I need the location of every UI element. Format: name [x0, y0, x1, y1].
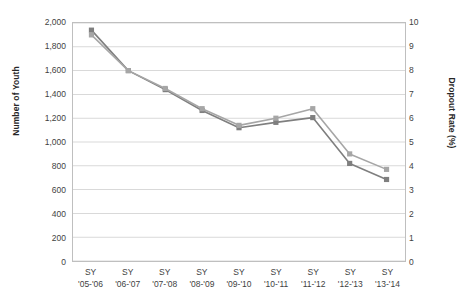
left-tick-label: 800 [26, 162, 66, 171]
x-tick-label: SY'10-'11 [258, 266, 295, 304]
x-tick-label: SY'13-'14 [369, 266, 406, 304]
left-tick-label: 2,000 [26, 18, 66, 27]
data-point [89, 32, 94, 37]
data-point [310, 115, 315, 120]
left-tick-label: 1,400 [26, 90, 66, 99]
right-tick-label: 3 [409, 186, 439, 195]
left-axis-title: Number of Youth [11, 47, 21, 155]
gridlines [73, 23, 405, 261]
left-axis-tick-labels: 2,0001,8001,6001,4001,2001,0008006004002… [26, 0, 66, 306]
data-point [89, 28, 94, 33]
x-tick-label: SY'07-'08 [146, 266, 183, 304]
right-axis-tick-labels: 109876543210 [409, 0, 439, 306]
right-axis-title: Dropout Rate (%) [447, 59, 457, 167]
data-point [347, 161, 352, 166]
left-tick-label: 1,800 [26, 42, 66, 51]
data-point [236, 123, 241, 128]
left-tick-label: 600 [26, 186, 66, 195]
data-point [347, 151, 352, 156]
data-point [310, 106, 315, 111]
right-tick-label: 9 [409, 42, 439, 51]
chart-container: Number of Youth Dropout Rate (%) 2,0001,… [0, 0, 465, 306]
right-tick-label: 7 [409, 90, 439, 99]
series-1 [89, 28, 389, 183]
series-2 [89, 32, 389, 172]
data-point [200, 106, 205, 111]
data-point [273, 116, 278, 121]
left-tick-label: 200 [26, 234, 66, 243]
plot-svg [73, 23, 405, 261]
x-tick-label: SY'11-'12 [295, 266, 332, 304]
left-tick-label: 0 [26, 258, 66, 267]
right-tick-label: 10 [409, 18, 439, 27]
right-tick-label: 8 [409, 66, 439, 75]
left-tick-label: 1,600 [26, 66, 66, 75]
x-tick-label: SY'06-'07 [109, 266, 146, 304]
data-point [384, 177, 389, 182]
right-tick-label: 4 [409, 162, 439, 171]
right-tick-label: 1 [409, 234, 439, 243]
left-tick-label: 1,200 [26, 114, 66, 123]
plot-area [72, 22, 406, 262]
left-tick-label: 1,000 [26, 138, 66, 147]
x-tick-label: SY'09-'10 [220, 266, 257, 304]
x-axis-tick-labels: SY'05-'06SY'06-'07SY'07-'08SY'08-'09SY'0… [72, 266, 406, 304]
data-point [126, 68, 131, 73]
x-tick-label: SY'08-'09 [183, 266, 220, 304]
right-tick-label: 0 [409, 258, 439, 267]
data-point [384, 167, 389, 172]
left-tick-label: 400 [26, 210, 66, 219]
x-tick-label: SY'05-'06 [72, 266, 109, 304]
x-tick-label: SY'12-'13 [332, 266, 369, 304]
data-point [163, 86, 168, 91]
right-tick-label: 5 [409, 138, 439, 147]
right-tick-label: 6 [409, 114, 439, 123]
right-tick-label: 2 [409, 210, 439, 219]
